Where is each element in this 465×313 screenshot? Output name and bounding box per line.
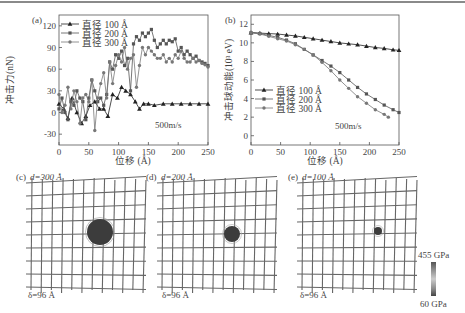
grid-line-vertical [274,180,277,293]
data-point [153,39,156,42]
data-point [63,111,66,114]
data-point [126,67,129,70]
colorbar-min-label: 60 GPa [420,299,447,309]
data-point [365,92,368,95]
grid-line-horizontal [157,205,277,209]
membrane-grid-e [297,177,417,294]
stress-colorbar: 455 GPa 60 GPa [418,250,449,309]
panel-label-a: (a) [32,15,42,25]
legend-label: 直径 300 Å [276,103,322,114]
data-point [93,89,96,92]
grid-line-vertical [31,178,32,290]
y-tick-label: 12 [239,19,248,29]
data-point [138,64,141,67]
grid-line-horizontal [26,247,146,248]
data-point [105,96,108,99]
legend-marker [262,106,265,109]
y-tick-label: 30 [47,86,57,96]
y-tick-label: -30 [44,129,56,139]
data-point [186,50,189,53]
series-100 [249,30,402,52]
y-axis-b: 024681012 [239,19,254,140]
y-tick-label: 120 [43,21,57,31]
grid-line-vertical [41,179,42,293]
data-point [102,71,105,74]
series-200 [249,31,400,114]
data-point [144,35,147,38]
data-point [329,64,332,67]
y-tick-label: 0 [52,108,57,118]
data-point [129,57,132,60]
plot-frame-b [251,15,399,145]
grid-line-vertical [414,180,417,293]
data-point [156,57,159,60]
data-point [383,103,386,106]
grid-line-horizontal [297,191,417,196]
data-point [329,69,332,72]
grid-line-vertical [143,180,146,293]
data-point [114,64,117,67]
data-point [188,60,191,63]
data-point [276,37,279,40]
x-axis-label-a: 位移 (Å) [115,155,151,167]
data-point [90,78,93,81]
data-point [197,59,200,62]
data-point [285,39,288,42]
grid-line-vertical [333,178,335,293]
legend-item: 直径 300 Å [61,37,128,48]
x-axis-a: 050100150200250 [57,142,216,157]
grid-line-vertical [172,179,173,293]
grid-line-vertical [162,178,163,290]
data-point [177,57,180,60]
displacement-label-c: δ=96 Å [28,290,56,300]
data-point [374,108,377,111]
grid-line-horizontal [157,191,277,196]
data-point [320,61,323,64]
grid-line-vertical [213,180,215,293]
data-point [102,104,105,107]
data-point [57,93,60,96]
snapshot-d: (d) d=200 Å δ=96 Å [146,172,277,300]
data-point [191,57,194,60]
y-axis-label-a: 冲击力(nN) [4,56,16,104]
grid-line-horizontal [26,274,146,275]
data-point [185,60,188,63]
data-point [135,86,138,89]
data-point [338,71,341,74]
data-point [114,53,117,56]
data-point [168,57,171,60]
data-point [206,65,209,68]
legend-marker [68,31,71,34]
x-axis-b: 050100150200250 [249,142,407,157]
grid-line-vertical [82,180,84,293]
x-tick-label: 0 [57,147,62,157]
grid-line-horizontal [297,219,417,222]
data-point [69,107,72,110]
data-point [78,122,81,125]
data-point [338,78,341,81]
data-point [108,60,111,63]
data-point [347,87,350,90]
x-tick-label: 250 [201,147,215,157]
panel-label-c: (c) [16,172,26,182]
grid-line-horizontal [297,247,417,248]
data-point [141,31,144,34]
legend-a: 直径 100 Å直径 200 Å直径 300 Å [61,19,128,48]
x-tick-label: 200 [363,147,377,157]
colorbar-gradient [431,262,436,296]
grid-line-horizontal [297,205,417,209]
data-point [311,53,314,56]
membrane-grid-d [157,177,277,294]
grid-line-horizontal [26,191,146,196]
data-point [111,82,114,85]
data-point [87,100,90,103]
data-point [159,57,162,60]
data-point [93,129,96,132]
grid-line-vertical [383,180,385,290]
figure: (a) -300306090120 050100150200250 冲击力(nN… [0,0,465,313]
data-point [111,68,114,71]
data-point [177,50,180,53]
legend-b: 直径 100 Å直径 200 Å直径 300 Å [255,85,322,114]
data-point [267,35,270,38]
data-point [171,40,174,43]
